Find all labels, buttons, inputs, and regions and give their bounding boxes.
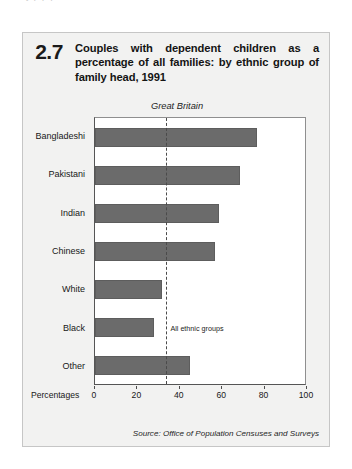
reference-line-label: All ethnic groups: [170, 324, 223, 333]
figure-source: Source: Office of Population Censuses an…: [23, 429, 331, 438]
page-top-cut-text: y p p p: [0, 0, 352, 16]
category-label: Chinese: [23, 232, 90, 270]
figure-panel: 2.7 Couples with dependent children as a…: [22, 32, 330, 447]
bar: [95, 242, 215, 261]
bar-row: [95, 346, 305, 384]
value-axis-tick: [136, 386, 137, 389]
category-label: Pakistani: [23, 155, 90, 193]
category-label: Bangladeshi: [23, 117, 90, 155]
bar: [95, 280, 162, 299]
value-axis-title: Percentages: [31, 390, 79, 400]
category-label: Black: [23, 308, 90, 346]
bar-row: [95, 156, 305, 194]
figure-title: Couples with dependent children as a per…: [75, 41, 331, 84]
bar: [95, 356, 190, 375]
value-axis-tick-label: 80: [259, 390, 269, 400]
bar: [95, 128, 257, 147]
bar: [95, 318, 154, 337]
value-axis-tick: [306, 386, 307, 389]
bar-row: [95, 232, 305, 270]
chart-subtitle: Great Britain: [23, 101, 331, 111]
figure-number: 2.7: [23, 41, 75, 61]
bar-row: [95, 270, 305, 308]
category-label: Other: [23, 347, 90, 385]
category-axis-labels: BangladeshiPakistaniIndianChineseWhiteBl…: [23, 117, 90, 385]
bar: [95, 166, 240, 185]
value-axis: 020406080100: [94, 386, 306, 404]
value-axis-tick-label: 0: [92, 390, 97, 400]
value-axis-tick-label: 40: [174, 390, 184, 400]
value-axis-tick-label: 20: [132, 390, 142, 400]
figure-header: 2.7 Couples with dependent children as a…: [23, 41, 331, 84]
value-axis-tick: [179, 386, 180, 389]
value-axis-tick: [264, 386, 265, 389]
page-top-cut-text-label: y p p p: [26, 0, 56, 1]
bar-row: [95, 194, 305, 232]
reference-line: [166, 118, 167, 384]
category-label: White: [23, 270, 90, 308]
value-axis-tick: [94, 386, 95, 389]
value-axis-tick: [221, 386, 222, 389]
category-label: Indian: [23, 194, 90, 232]
plot-area: All ethnic groups: [94, 117, 306, 385]
value-axis-tick-label: 100: [299, 390, 313, 400]
value-axis-tick-label: 60: [216, 390, 226, 400]
bar-row: [95, 118, 305, 156]
bar: [95, 204, 219, 223]
bars-layer: [95, 118, 305, 384]
